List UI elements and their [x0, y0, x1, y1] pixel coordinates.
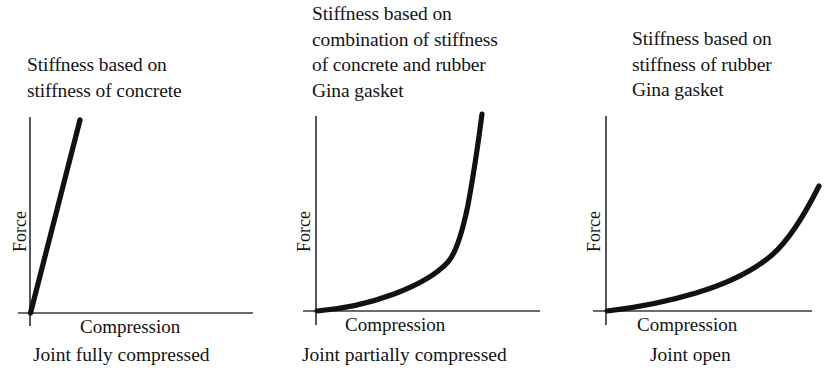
- panel-caption: Joint fully compressed: [33, 344, 210, 366]
- panel-caption: Joint partially compressed: [302, 344, 507, 366]
- data-curve: [317, 114, 482, 311]
- panel-caption: Joint open: [650, 344, 731, 366]
- chart-panel-joint-open: Stiffness based on stiffness of rubber G…: [572, 0, 826, 372]
- data-curve: [31, 120, 81, 313]
- data-curve: [607, 186, 819, 311]
- chart-panel-joint-partially-compressed: Stiffness based on combination of stiffn…: [282, 0, 572, 372]
- y-axis-label: Force: [10, 211, 31, 252]
- chart-panel-joint-fully-compressed: Stiffness based on stiffness of concrete…: [0, 0, 282, 372]
- x-axis-label: Compression: [80, 316, 180, 338]
- y-axis-label: Force: [294, 211, 315, 252]
- force-compression-figure: Stiffness based on stiffness of concrete…: [0, 0, 826, 372]
- x-axis-label: Compression: [345, 314, 445, 336]
- x-axis-label: Compression: [637, 314, 737, 336]
- y-axis-label: Force: [584, 211, 605, 252]
